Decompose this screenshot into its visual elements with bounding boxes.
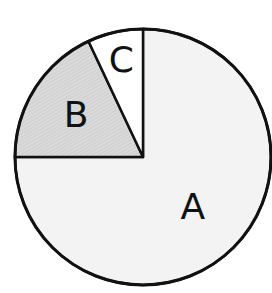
pie-chart: A B C <box>0 0 272 293</box>
slice-label-c: C <box>109 39 134 80</box>
slice-label-b: B <box>64 94 89 135</box>
slice-label-a: A <box>180 186 205 227</box>
